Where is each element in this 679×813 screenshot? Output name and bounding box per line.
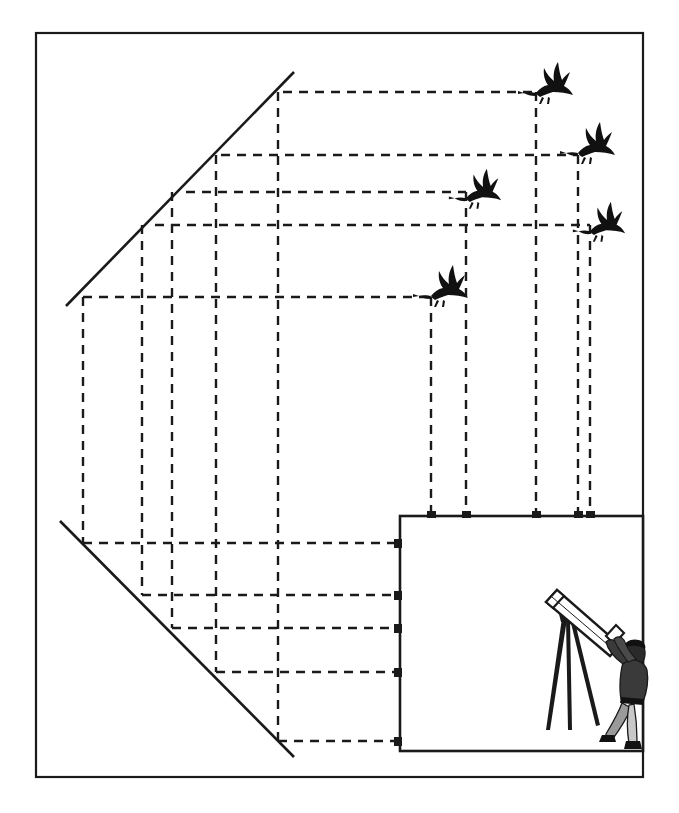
plane-row-4-horizontal-panel-tick	[394, 668, 402, 677]
bird-3-drop-vertical-panel-tick	[462, 511, 471, 518]
plane-row-3-horizontal-panel-tick	[394, 624, 402, 633]
plane-row-1-horizontal-panel-tick	[394, 539, 402, 548]
plane-row-2-horizontal-panel-tick	[394, 591, 402, 600]
projection-diagram	[0, 0, 679, 813]
bird-4-drop-vertical-panel-tick	[586, 511, 595, 518]
bird-2-drop-vertical-panel-tick	[574, 511, 583, 518]
plane-row-5-horizontal-panel-tick	[394, 737, 402, 746]
bird-5-drop-vertical-panel-tick	[427, 511, 436, 518]
bird-1-drop-vertical-panel-tick	[532, 511, 541, 518]
figure-root	[0, 0, 679, 813]
